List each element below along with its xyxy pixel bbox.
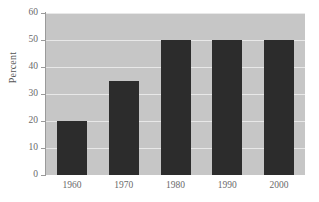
y-tick-label: 0 <box>0 170 38 180</box>
y-tick-label: 30 <box>0 89 38 99</box>
y-axis-spine <box>45 12 46 176</box>
y-tick-mark <box>41 13 45 14</box>
y-tick-mark <box>41 40 45 41</box>
bar <box>212 40 242 175</box>
y-tick-label: 20 <box>0 116 38 126</box>
y-tick-mark <box>41 94 45 95</box>
x-tick-label: 2000 <box>249 181 309 191</box>
plot-area <box>46 13 305 175</box>
y-tick-label: 10 <box>0 143 38 153</box>
y-tick-mark <box>41 148 45 149</box>
bar <box>57 121 87 175</box>
y-tick-mark <box>41 175 45 176</box>
gridline <box>46 13 305 14</box>
bar-chart-figure: Percent 0102030405060 196019701980199020… <box>0 0 319 202</box>
y-tick-label: 50 <box>0 35 38 45</box>
bar <box>264 40 294 175</box>
bar <box>109 81 139 176</box>
y-tick-mark <box>41 67 45 68</box>
bar <box>161 40 191 175</box>
y-tick-label: 40 <box>0 62 38 72</box>
y-tick-label: 60 <box>0 8 38 18</box>
y-tick-mark <box>41 121 45 122</box>
